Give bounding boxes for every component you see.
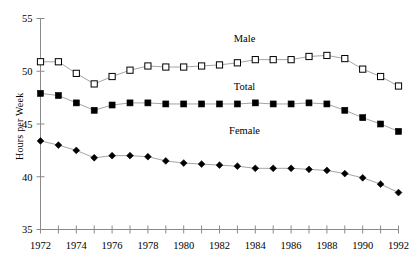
data-point-female	[162, 158, 169, 165]
x-tick-label: 1992	[388, 240, 409, 251]
data-point-male	[199, 63, 205, 69]
x-tick-label: 1972	[30, 240, 51, 251]
data-point-male	[55, 59, 61, 65]
data-point-total	[181, 101, 187, 107]
x-tick-label: 1990	[352, 240, 373, 251]
data-point-total	[127, 100, 133, 106]
y-tick-label: 45	[22, 119, 33, 130]
data-point-female	[359, 174, 366, 181]
data-point-total	[91, 107, 97, 113]
data-point-total	[342, 107, 348, 113]
x-tick-label: 1984	[245, 240, 267, 251]
data-point-total	[306, 100, 312, 106]
chart-container: Hours per Week 3540455055 19721974197619…	[0, 0, 409, 266]
data-point-male	[395, 83, 401, 89]
data-point-total	[324, 101, 330, 107]
data-point-male	[288, 57, 294, 63]
y-tick-label: 55	[22, 13, 33, 24]
data-point-female	[324, 167, 331, 174]
line-chart-plot: 3540455055 19721974197619781980198219841…	[0, 0, 409, 266]
x-tick-label: 1974	[66, 240, 88, 251]
data-point-female	[270, 165, 277, 172]
series-annotation-male: Male	[234, 33, 256, 44]
data-point-female	[377, 181, 384, 188]
data-point-male	[324, 52, 330, 58]
x-tick-label: 1978	[137, 240, 158, 251]
data-point-male	[342, 55, 348, 61]
data-point-female	[341, 170, 348, 177]
data-point-female	[109, 152, 116, 159]
data-point-male	[163, 64, 169, 70]
data-point-total	[288, 101, 294, 107]
x-tick-label: 1982	[209, 240, 230, 251]
data-point-total	[163, 101, 169, 107]
series-annotation-total: Total	[234, 81, 255, 92]
data-point-total	[145, 100, 151, 106]
data-point-male	[360, 66, 366, 72]
data-point-female	[55, 142, 62, 149]
data-point-male	[378, 73, 384, 79]
data-point-female	[37, 137, 44, 144]
data-point-male	[109, 73, 115, 79]
data-point-male	[252, 57, 258, 63]
y-tick-label: 35	[22, 224, 33, 235]
data-point-female	[395, 189, 402, 196]
data-point-female	[145, 153, 152, 160]
data-point-female	[73, 147, 80, 154]
data-point-female	[216, 162, 223, 169]
data-point-female	[91, 154, 98, 161]
data-point-male	[73, 70, 79, 76]
x-tick-label: 1980	[173, 240, 194, 251]
x-axis: 1972197419761978198019821984198619881990…	[30, 226, 409, 251]
y-tick-label: 40	[22, 172, 33, 183]
data-point-total	[234, 101, 240, 107]
data-point-male	[234, 60, 240, 66]
data-point-female	[252, 165, 259, 172]
data-point-total	[199, 101, 205, 107]
data-point-total	[55, 93, 61, 99]
data-point-total	[270, 101, 276, 107]
data-point-total	[252, 100, 258, 106]
data-point-male	[216, 62, 222, 68]
x-tick-label: 1986	[281, 240, 302, 251]
data-point-total	[360, 115, 366, 121]
data-point-total	[378, 121, 384, 127]
data-point-male	[306, 53, 312, 59]
series-annotation-female: Female	[229, 125, 260, 136]
data-point-male	[270, 57, 276, 63]
y-axis: 3540455055	[22, 13, 45, 235]
data-point-total	[396, 128, 402, 134]
data-series-group	[37, 52, 402, 196]
data-point-male	[37, 59, 43, 65]
data-point-female	[127, 152, 134, 159]
data-point-total	[109, 102, 115, 108]
data-point-female	[234, 163, 241, 170]
data-point-male	[181, 64, 187, 70]
data-point-total	[217, 101, 223, 107]
x-tick-label: 1988	[316, 240, 337, 251]
data-point-female	[306, 166, 313, 173]
data-point-female	[288, 165, 295, 172]
data-point-total	[38, 90, 44, 96]
data-point-female	[198, 161, 205, 168]
data-point-male	[127, 67, 133, 73]
x-tick-label: 1976	[102, 240, 123, 251]
data-point-male	[91, 81, 97, 87]
data-point-female	[180, 160, 187, 167]
y-tick-label: 50	[22, 66, 33, 77]
data-point-total	[73, 100, 79, 106]
data-point-male	[145, 63, 151, 69]
